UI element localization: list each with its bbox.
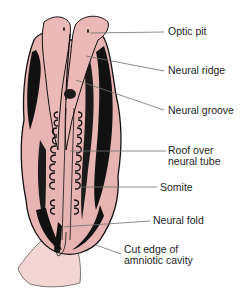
optic-pit-right	[87, 29, 89, 33]
label-somite: Somite	[160, 182, 193, 193]
label-neural-fold: Neural fold	[153, 215, 204, 226]
optic-pit-left	[63, 27, 65, 31]
neural-groove-dark	[64, 89, 76, 99]
label-roof-over-neural-tube: Roof over neural tube	[168, 145, 221, 167]
label-optic-pit: Optic pit	[168, 26, 207, 37]
label-neural-groove: Neural groove	[168, 105, 234, 116]
leader-cut-edge	[96, 245, 121, 254]
label-neural-ridge: Neural ridge	[168, 65, 225, 76]
label-cut-edge-of-amniotic-cavity: Cut edge of amniotic cavity	[124, 244, 193, 266]
